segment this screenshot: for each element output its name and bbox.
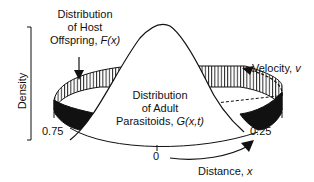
parasitoid-label-line2: of Adult: [115, 102, 205, 115]
tick-label-0: 0: [153, 150, 159, 163]
host-label-line1: Distribution: [44, 8, 126, 21]
y-axis-label: Density: [16, 61, 28, 121]
tick-label-0-25: 0.25: [250, 125, 271, 138]
tick-label-0-75: 0.75: [42, 125, 63, 138]
distance-symbol: x: [247, 165, 253, 177]
parasitoid-label-line1: Distribution: [115, 89, 205, 102]
host-label-function: F(x): [101, 34, 121, 46]
velocity-symbol: v: [295, 62, 301, 74]
velocity-label-prefix: Velocity,: [252, 62, 295, 74]
parasitoid-label-prefix: Parasitoids,: [116, 115, 177, 127]
parasitoid-label-function: G(x,t): [177, 115, 205, 127]
distance-label: Distance, x: [198, 165, 252, 178]
velocity-label: Velocity, v: [252, 62, 301, 75]
host-label-prefix: Offspring,: [50, 34, 101, 46]
distance-label-prefix: Distance,: [198, 165, 247, 177]
parasitoid-distribution-label: Distribution of Adult Parasitoids, G(x,t…: [115, 89, 205, 128]
parasitoid-label-line3: Parasitoids, G(x,t): [115, 115, 205, 128]
host-label-line2: of Host: [44, 21, 126, 34]
host-label-line3: Offspring, F(x): [44, 34, 126, 47]
host-distribution-label: Distribution of Host Offspring, F(x): [44, 8, 126, 47]
